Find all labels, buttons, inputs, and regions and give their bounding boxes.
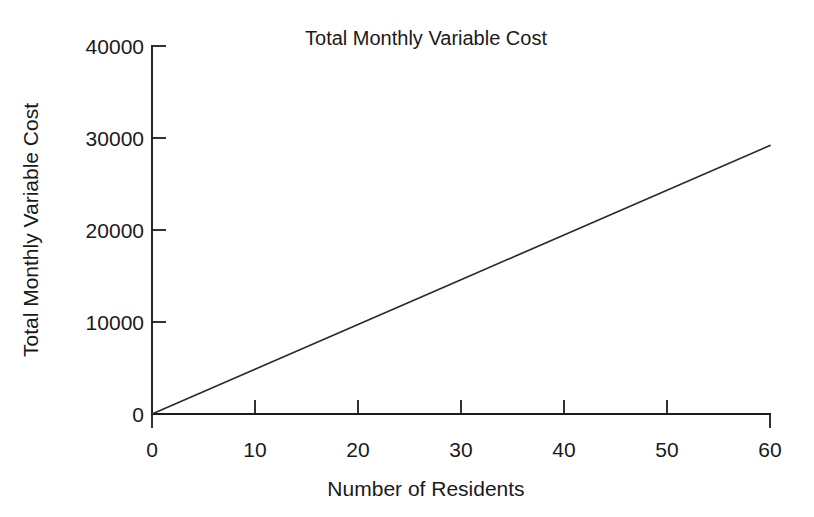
series-line-total-monthly-variable-cost bbox=[152, 145, 770, 414]
chart-title: Total Monthly Variable Cost bbox=[305, 27, 547, 49]
x-tick-label-10: 10 bbox=[243, 438, 266, 461]
x-tick-label-30: 30 bbox=[449, 438, 472, 461]
y-tick-label-0: 0 bbox=[132, 403, 144, 426]
x-tick-label-60: 60 bbox=[758, 438, 781, 461]
y-tick-label-20000: 20000 bbox=[86, 219, 144, 242]
y-tick-label-40000: 40000 bbox=[86, 35, 144, 58]
x-tick-label-50: 50 bbox=[655, 438, 678, 461]
x-axis-title: Number of Residents bbox=[327, 477, 524, 500]
y-axis-title: Total Monthly Variable Cost bbox=[19, 103, 42, 357]
x-tick-label-20: 20 bbox=[346, 438, 369, 461]
x-tick-label-40: 40 bbox=[552, 438, 575, 461]
y-tick-label-10000: 10000 bbox=[86, 311, 144, 334]
chart-container: Total Monthly Variable Cost Total Monthl… bbox=[0, 0, 814, 517]
y-tick-label-30000: 30000 bbox=[86, 127, 144, 150]
line-chart: Total Monthly Variable Cost Total Monthl… bbox=[0, 0, 814, 517]
x-tick-label-0: 0 bbox=[146, 438, 158, 461]
